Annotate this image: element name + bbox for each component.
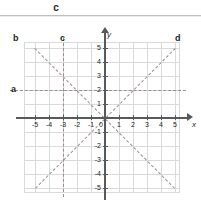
y-tick	[103, 188, 108, 189]
x-tick-label: -3	[56, 121, 70, 129]
y-tick-label: -3	[88, 156, 101, 164]
x-tick-label: -5	[28, 121, 42, 129]
figure-part-letter: c	[48, 1, 64, 14]
y-tick-label: -1	[88, 128, 101, 136]
x-tick	[133, 115, 134, 120]
gridline-horizontal	[24, 104, 180, 105]
gridline-horizontal	[24, 48, 180, 49]
gridline-border-top	[24, 42, 180, 43]
line-label-b: b	[13, 33, 19, 43]
x-tick-label: 4	[154, 121, 168, 129]
gridline-horizontal	[24, 76, 180, 77]
y-tick	[103, 90, 108, 91]
x-tick	[161, 115, 162, 120]
line-label-d: d	[175, 33, 181, 43]
y-tick-label: 2	[88, 86, 101, 94]
x-tick	[63, 115, 64, 120]
y-tick	[103, 174, 108, 175]
y-tick	[103, 62, 108, 63]
gridline-horizontal	[24, 160, 180, 161]
header-divider	[0, 15, 201, 17]
gridline-horizontal	[24, 132, 180, 133]
y-tick-label: 3	[88, 72, 101, 80]
y-tick	[103, 104, 108, 105]
coordinate-plane: -5 -4 -3 -2 -1 0 1 2 3 4 5 5 4 3 2 1 -1 …	[24, 42, 180, 193]
x-axis-label: x	[192, 120, 196, 129]
x-tick	[77, 115, 78, 120]
x-tick	[35, 115, 36, 120]
y-axis-label: y	[107, 30, 111, 39]
y-tick-label: -4	[88, 170, 101, 178]
line-label-c: c	[60, 33, 65, 43]
x-tick	[49, 115, 50, 120]
y-tick-label: 5	[88, 44, 101, 52]
x-axis	[16, 117, 188, 119]
gridline-horizontal	[24, 146, 180, 147]
y-tick-label: -5	[88, 184, 101, 192]
x-tick-label: 2	[126, 121, 140, 129]
x-tick	[119, 115, 120, 120]
y-tick-label: 1	[88, 100, 101, 108]
y-tick	[103, 132, 108, 133]
x-tick-label: 3	[140, 121, 154, 129]
x-tick-label: -4	[42, 121, 56, 129]
y-tick	[103, 76, 108, 77]
y-tick	[103, 160, 108, 161]
line-label-a: a	[11, 84, 16, 94]
gridline-border-bottom	[24, 192, 180, 193]
x-tick	[91, 115, 92, 120]
y-tick	[103, 48, 108, 49]
y-tick	[103, 146, 108, 147]
x-tick-label: 5	[168, 121, 182, 129]
y-tick-label: -2	[88, 142, 101, 150]
y-tick-label: 4	[88, 58, 101, 66]
x-tick-label: -2	[70, 121, 84, 129]
gridline-horizontal	[24, 188, 180, 189]
x-tick	[147, 115, 148, 120]
x-tick-label: 1	[112, 121, 126, 129]
x-tick	[175, 115, 176, 120]
